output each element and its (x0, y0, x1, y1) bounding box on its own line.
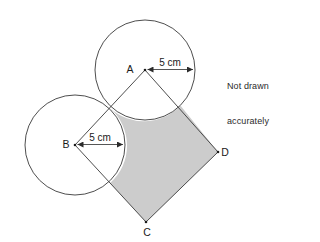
note-line-2: accurately (227, 116, 269, 128)
vertex-dot-c (145, 221, 148, 224)
label-radius-a: 5 cm (159, 57, 181, 68)
label-point-b: B (62, 138, 69, 150)
vertex-dot-d (217, 151, 220, 154)
label-radius-b: 5 cm (89, 132, 111, 143)
not-drawn-accurately-note: Not drawn accurately (227, 58, 269, 139)
label-point-d: D (221, 146, 229, 158)
note-line-1: Not drawn (227, 81, 269, 93)
label-point-a: A (126, 63, 133, 75)
label-point-c: C (143, 226, 151, 238)
centre-dot-a (144, 69, 147, 72)
centre-dot-b (74, 144, 77, 147)
